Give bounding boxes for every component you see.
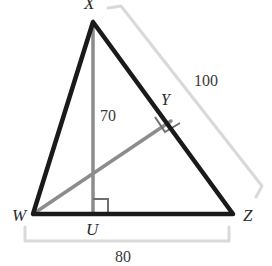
measure-label-hypotenuse: 100 xyxy=(194,73,218,89)
geometry-canvas xyxy=(0,0,272,266)
geometry-diagram: X W Z U Y 70 100 80 xyxy=(0,0,272,266)
point-label-u: U xyxy=(86,221,98,238)
vertex-label-w: W xyxy=(12,207,26,224)
hypotenuse-bracket xyxy=(108,6,262,197)
base-bracket xyxy=(25,227,229,241)
cevian-wy xyxy=(33,121,171,214)
vertex-label-apex: X xyxy=(84,0,94,12)
measure-label-altitude: 70 xyxy=(100,108,116,124)
point-label-y: Y xyxy=(161,92,170,108)
triangle-outline xyxy=(33,22,233,214)
vertex-label-z: Z xyxy=(243,207,252,224)
measure-label-base: 80 xyxy=(115,249,131,265)
